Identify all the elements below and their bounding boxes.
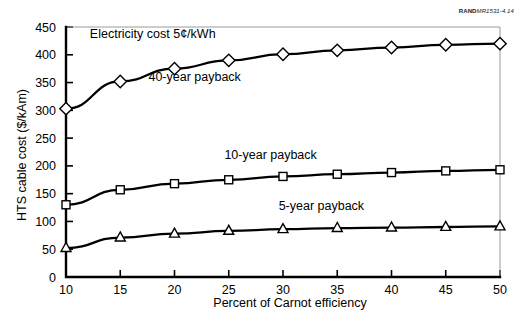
data-point-marker (279, 172, 287, 180)
y-tick-label: 0 (49, 271, 56, 285)
data-point-marker (114, 75, 126, 87)
y-tick-label: 400 (35, 48, 56, 62)
data-point-marker (442, 167, 450, 175)
line-chart-plot: 050100150200250300350400450 101520253035… (0, 0, 522, 319)
data-point-marker (440, 39, 452, 51)
series-3 (61, 221, 505, 252)
data-point-marker (331, 44, 343, 56)
series-1 (60, 37, 506, 114)
y-tick-label: 300 (35, 104, 56, 118)
data-point-marker (494, 37, 506, 49)
y-tick-label: 250 (35, 132, 56, 146)
data-point-marker (62, 201, 70, 209)
x-axis-tick-labels: 101520253035404550 (59, 283, 507, 297)
data-point-marker (223, 54, 235, 66)
data-point-marker (60, 102, 72, 114)
data-point-marker (116, 186, 124, 194)
data-series-group (60, 37, 506, 251)
y-tick-label: 450 (35, 21, 56, 35)
x-tick-label: 40 (385, 283, 399, 297)
y-tick-label: 100 (35, 215, 56, 229)
data-point-marker (277, 48, 289, 60)
x-tick-label: 50 (493, 283, 507, 297)
data-point-marker (171, 180, 179, 188)
y-tick-label: 50 (42, 243, 56, 257)
x-tick-label: 45 (439, 283, 453, 297)
y-axis-title: HTS cable cost ($/kAm) (15, 89, 29, 221)
x-tick-label: 25 (222, 283, 236, 297)
x-axis-title: Percent of Carnot efficiency (213, 296, 367, 310)
y-tick-label: 350 (35, 76, 56, 90)
y-tick-label: 150 (35, 187, 56, 201)
chart-annotation-label: 40-year payback (148, 70, 241, 84)
data-point-marker (496, 166, 504, 174)
data-point-marker (388, 169, 396, 177)
chart-annotation-label: Electricity cost 5¢/kWh (90, 27, 216, 41)
chart-annotation-label: 10-year payback (224, 148, 317, 162)
x-tick-label: 15 (113, 283, 127, 297)
chart-annotation-label: 5-year payback (279, 199, 365, 213)
data-point-marker (225, 176, 233, 184)
y-tick-label: 200 (35, 159, 56, 173)
chart-figure: RANDMR1531-4.14 050100150200250300350400… (0, 0, 522, 319)
x-tick-label: 35 (330, 283, 344, 297)
x-tick-label: 30 (276, 283, 290, 297)
x-tick-label: 20 (168, 283, 182, 297)
data-point-marker (333, 170, 341, 178)
y-axis-tick-labels: 050100150200250300350400450 (35, 21, 56, 285)
data-point-marker (385, 41, 397, 53)
x-tick-label: 10 (59, 283, 73, 297)
